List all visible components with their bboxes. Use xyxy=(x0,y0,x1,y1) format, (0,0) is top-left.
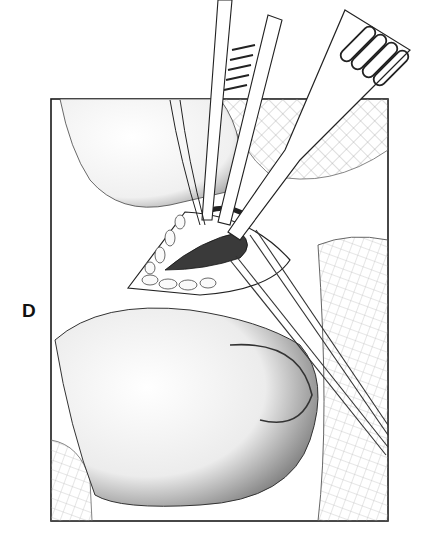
drape-right xyxy=(318,237,388,521)
surgical-illustration xyxy=(0,0,436,560)
skin-lower xyxy=(55,308,318,506)
